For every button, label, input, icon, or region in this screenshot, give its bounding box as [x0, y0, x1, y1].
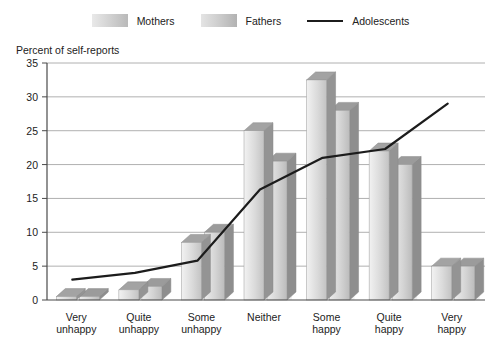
x-axis-category-labels: VeryunhappyQuiteunhappySomeunhappyNeithe… [56, 311, 467, 335]
bar-mothers [181, 234, 210, 300]
svg-text:Veryunhappy: Veryunhappy [56, 311, 97, 335]
x-axis-label: Someunhappy [181, 311, 222, 335]
chart-plot-area: 05101520253035 VeryunhappyQuiteunhappySo… [0, 0, 501, 357]
svg-text:Quiteunhappy: Quiteunhappy [119, 311, 160, 335]
bar-mothers [244, 123, 273, 300]
bar-mothers [369, 143, 398, 300]
svg-text:Veryhappy: Veryhappy [437, 311, 466, 335]
svg-text:Neither: Neither [247, 311, 281, 323]
x-axis-label: Neither [247, 311, 281, 323]
y-tick-label: 30 [26, 91, 38, 103]
x-axis-label: Veryhappy [437, 311, 466, 335]
y-tick-label: 15 [26, 192, 38, 204]
y-tick-label: 25 [26, 125, 38, 137]
bar-mothers [432, 258, 461, 300]
x-axis-label: Veryunhappy [56, 311, 97, 335]
x-axis-label: Quitehappy [375, 311, 404, 335]
y-tick-label: 10 [26, 226, 38, 238]
x-axis-label: Quiteunhappy [119, 311, 160, 335]
y-tick-label: 5 [32, 260, 38, 272]
svg-text:Quitehappy: Quitehappy [375, 311, 404, 335]
svg-text:Somehappy: Somehappy [312, 311, 341, 335]
y-tick-label: 35 [26, 57, 38, 69]
svg-text:Someunhappy: Someunhappy [181, 311, 222, 335]
y-tick-label: 0 [32, 294, 38, 306]
y-tick-label: 20 [26, 159, 38, 171]
bar-line-chart: 05101520253035 VeryunhappyQuiteunhappySo… [0, 0, 501, 357]
y-axis-ticks: 05101520253035 [26, 57, 47, 306]
bar-mothers [307, 72, 336, 300]
x-axis-label: Somehappy [312, 311, 341, 335]
